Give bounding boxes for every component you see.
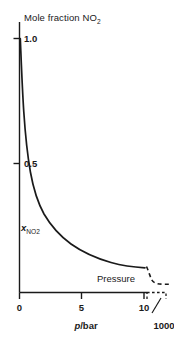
pressure-annotation: Pressure [97, 273, 135, 284]
x-tick-label-10: 10 [139, 302, 150, 313]
y-tick-label-1.0: 1.0 [24, 33, 37, 44]
figure-container: Mole fraction NO2 1.0 0.5 0 5 10 1000 p/… [0, 0, 174, 338]
axis-break-bracket [147, 293, 166, 300]
x-tick-label-5: 5 [79, 302, 85, 313]
chart-svg: Mole fraction NO2 1.0 0.5 0 5 10 1000 p/… [0, 0, 174, 338]
y-tick-label-0.5: 0.5 [24, 158, 38, 169]
curve-x-no2-high-pressure [147, 267, 170, 285]
chart-title: Mole fraction NO2 [24, 12, 101, 25]
chart-title-main: Mole fraction NO [24, 12, 97, 23]
chart-title-subscript: 2 [97, 18, 101, 25]
x-tick-label-1000: 1000 [153, 320, 174, 331]
axis-break-slash [152, 298, 161, 313]
x-tick-label-0: 0 [17, 302, 22, 313]
curve-annotation: xNO2 [20, 222, 40, 235]
x-axis-label-units: /bar [80, 320, 98, 331]
x-axis-label: p/bar [73, 320, 98, 331]
curve-annotation-subscript: NO2 [26, 228, 40, 235]
